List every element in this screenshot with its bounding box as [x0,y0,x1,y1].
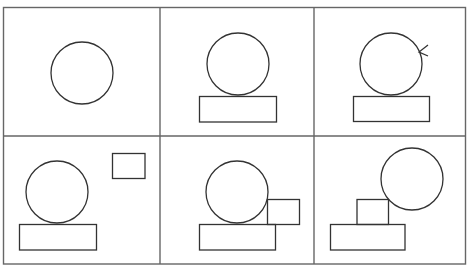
small-block [113,154,146,179]
grid [4,8,466,265]
panel-6 [331,148,444,250]
base-rectangle [20,225,97,251]
panel-2 [200,33,277,122]
diagram-canvas [0,0,468,266]
ball-circle [207,33,269,95]
panel-4 [20,154,146,251]
ball-circle [381,148,443,210]
ball-circle [206,161,268,223]
base-rectangle [200,97,277,123]
small-block [357,200,389,225]
panel-5 [200,161,300,250]
small-block [268,200,300,225]
ball-circle [51,42,113,104]
panel-1 [51,42,113,104]
base-rectangle [200,225,276,251]
base-rectangle [354,97,430,122]
panel-3 [354,33,430,122]
base-rectangle [331,225,406,251]
ball-circle [360,33,422,95]
ball-circle [26,161,88,223]
